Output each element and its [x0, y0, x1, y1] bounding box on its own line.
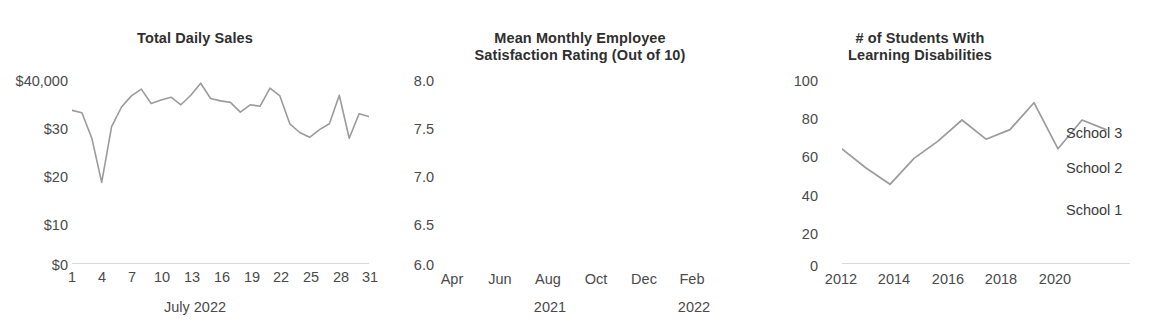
y-tick-label: $20 [6, 170, 68, 184]
charts-page: Total Daily Sales $40,000 $30 $20 $10 $0… [0, 0, 1154, 334]
chart-title-line-1: # of Students With [770, 30, 1070, 47]
x-tick-label: 10 [147, 270, 177, 284]
y-tick-label: 7.0 [390, 170, 434, 184]
chart-panel-learning-disabilities: # of Students With Learning Disabilities… [770, 0, 1154, 334]
x-tick-label: 16 [207, 270, 237, 284]
series-label-school-2: School 2 [1066, 161, 1122, 175]
x-tick-label: 25 [296, 270, 326, 284]
x-tick-label: 22 [266, 270, 296, 284]
chart-panel-total-daily-sales: Total Daily Sales $40,000 $30 $20 $10 $0… [0, 0, 390, 334]
x-tick-label: 19 [237, 270, 267, 284]
x-tick-label: 2018 [974, 272, 1028, 286]
chart-title-line-2: Learning Disabilities [770, 47, 1070, 64]
x-tick-label: 13 [177, 270, 207, 284]
line-chart-svg [72, 72, 369, 264]
y-tick-label: 6.5 [390, 218, 434, 232]
y-tick-label: 100 [774, 74, 818, 88]
x-tick-label: 2020 [1028, 272, 1082, 286]
y-tick-label: 8.0 [390, 74, 434, 88]
chart-title-total-daily-sales: Total Daily Sales [0, 30, 390, 47]
chart-panel-employee-satisfaction: Mean Monthly Employee Satisfaction Ratin… [390, 0, 770, 334]
x-tick-label: 2014 [867, 272, 921, 286]
y-tick-label: 0 [774, 259, 818, 273]
y-tick-label: 40 [774, 189, 818, 203]
y-tick-label: $10 [6, 218, 68, 232]
series-label-school-1: School 1 [1066, 203, 1122, 217]
x-axis-year-right: 2022 [672, 300, 716, 314]
y-tick-label: 6.0 [390, 258, 434, 272]
chart-title-learning-disabilities: # of Students With Learning Disabilities [770, 30, 1070, 64]
x-tick-label: 7 [118, 270, 146, 284]
x-tick-label: Dec [624, 272, 664, 286]
series-label-school-3: School 3 [1066, 126, 1122, 140]
y-tick-label: 60 [774, 150, 818, 164]
chart-title-employee-satisfaction: Mean Monthly Employee Satisfaction Ratin… [390, 30, 770, 64]
x-tick-label: 1 [58, 270, 86, 284]
y-tick-label: $30 [6, 122, 68, 136]
plot-area-total-daily-sales [72, 72, 369, 264]
x-tick-label: 28 [326, 270, 356, 284]
y-tick-label: 7.5 [390, 122, 434, 136]
x-tick-label: 31 [355, 270, 385, 284]
chart-title-line-1: Mean Monthly Employee [390, 30, 770, 47]
y-tick-label: 20 [774, 227, 818, 241]
x-tick-label: 2016 [921, 272, 975, 286]
x-axis-year-left: 2021 [528, 300, 572, 314]
series-line-daily-sales [72, 83, 369, 182]
x-axis-caption: July 2022 [0, 299, 390, 315]
x-tick-label: Jun [480, 272, 520, 286]
x-tick-label: Oct [576, 272, 616, 286]
y-tick-label: $40,000 [6, 74, 68, 88]
chart-title-line-2: Satisfaction Rating (Out of 10) [390, 47, 770, 64]
x-tick-label: Apr [432, 272, 472, 286]
y-tick-label: 80 [774, 112, 818, 126]
x-tick-label: 4 [88, 270, 116, 284]
x-tick-label: Aug [528, 272, 568, 286]
x-tick-label: Feb [672, 272, 712, 286]
x-tick-label: 2012 [814, 272, 868, 286]
